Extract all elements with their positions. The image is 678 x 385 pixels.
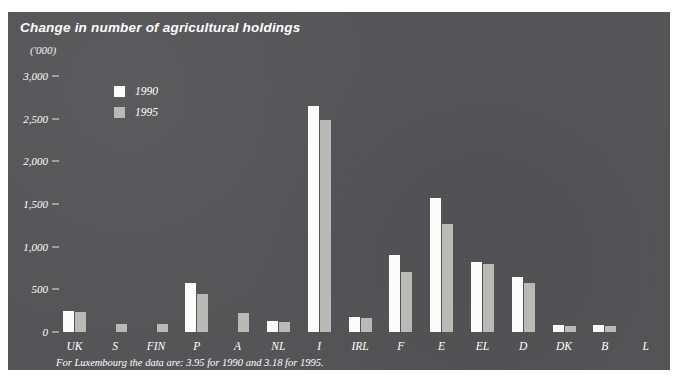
y-axis-tick-label: 1,500 [8,198,48,210]
chart-footnote: For Luxembourg the data are: 3.95 for 19… [56,357,324,368]
y-axis-tick-label: 3,000 [8,70,48,82]
x-axis-tick-label-D: D [519,340,527,352]
y-axis-tick-label: 1,000 [8,241,48,253]
bar-EL-1995 [483,264,494,332]
x-axis-tick-label-IRL: IRL [351,340,368,352]
bar-E-1990 [430,198,441,332]
bar-P-1995 [197,294,208,332]
y-axis-tick-label: 2,000 [8,155,48,167]
y-axis-tick-label: 2,500 [8,113,48,125]
bar-IRL-1990 [349,317,360,332]
x-axis-tick-label-E: E [438,340,445,352]
bar-NL-1990 [267,321,278,332]
plot-area: 05001,0001,5002,0002,5003,000UKSFINPANLI… [8,12,670,370]
bar-NL-1995 [279,322,290,332]
y-axis-tick-mark [52,161,59,162]
bar-DK-1995 [565,326,576,332]
bar-UK-1990 [63,311,74,332]
bar-I-1995 [320,120,331,332]
y-axis-tick-mark [52,246,59,247]
bar-B-1995 [605,326,616,332]
x-axis-tick-label-EL: EL [476,340,489,352]
x-axis-tick-label-FIN: FIN [147,340,166,352]
y-axis-tick-label: 500 [8,283,48,295]
bar-DK-1990 [553,325,564,332]
y-axis-tick-mark [52,204,59,205]
bar-EL-1990 [471,262,482,332]
x-axis-tick-label-DK: DK [556,340,572,352]
bar-F-1995 [401,272,412,332]
x-axis-tick-label-P: P [193,340,200,352]
x-axis-tick-label-L: L [642,340,648,352]
y-axis-tick-mark [52,118,59,119]
bar-S-1995 [116,324,127,332]
y-axis-tick-mark [52,76,59,77]
y-axis-tick-mark [52,332,59,333]
y-axis-tick-mark [52,289,59,290]
bar-FIN-1995 [157,324,168,332]
bar-IRL-1995 [361,318,372,332]
x-axis-tick-label-A: A [234,340,241,352]
bar-UK-1995 [75,312,86,332]
x-axis-tick-label-I: I [317,340,321,352]
bar-B-1990 [593,325,604,332]
bar-D-1995 [524,283,535,332]
bar-E-1995 [442,224,453,332]
bar-A-1995 [238,313,249,332]
bar-P-1990 [185,283,196,332]
y-axis-tick-label: 0 [8,326,48,338]
x-axis-tick-label-B: B [601,340,608,352]
bar-I-1990 [308,106,319,332]
x-axis-tick-label-NL: NL [271,340,285,352]
chart-figure: Change in number of agricultural holding… [8,12,670,370]
bar-F-1990 [389,255,400,332]
x-axis-tick-label-F: F [397,340,404,352]
x-axis-tick-label-S: S [112,340,118,352]
bar-D-1990 [512,277,523,332]
x-axis-tick-label-UK: UK [66,340,82,352]
